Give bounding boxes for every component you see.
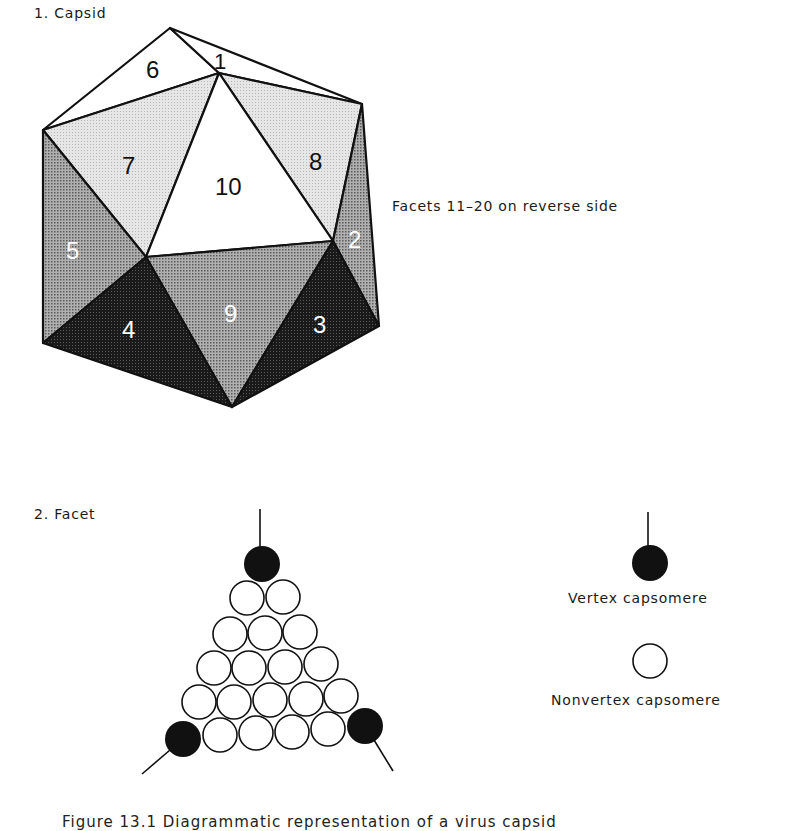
legend-vertex-label: Vertex capsomere bbox=[568, 590, 708, 606]
capsid-diagram: 6 1 7 8 10 5 2 9 4 3 bbox=[0, 0, 400, 420]
legend-nonvertex-icon bbox=[633, 644, 667, 678]
nonvertex-capsomeres bbox=[182, 580, 358, 752]
facet-1-label: 1 bbox=[214, 49, 226, 74]
facet-10-label: 10 bbox=[215, 173, 242, 200]
facet-9-label: 9 bbox=[224, 300, 237, 327]
facet-6-label: 6 bbox=[146, 56, 159, 83]
vertex-capsomeres bbox=[165, 546, 383, 757]
facet-8-label: 8 bbox=[309, 148, 322, 175]
facet-4-label: 4 bbox=[122, 316, 135, 343]
facet-title: 2. Facet bbox=[34, 506, 95, 522]
facet-2-label: 2 bbox=[348, 226, 361, 253]
reverse-side-note: Facets 11–20 on reverse side bbox=[392, 198, 618, 214]
facet-5-label: 5 bbox=[66, 237, 79, 264]
facet-7-label: 7 bbox=[122, 152, 135, 179]
legend-nonvertex-label: Nonvertex capsomere bbox=[551, 692, 721, 708]
facet-3-label: 3 bbox=[313, 311, 326, 338]
legend-vertex-icon bbox=[632, 545, 668, 581]
figure-caption: Figure 13.1 Diagrammatic representation … bbox=[62, 813, 557, 831]
